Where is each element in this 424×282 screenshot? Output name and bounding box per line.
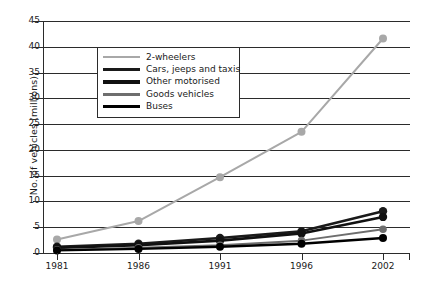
y-tick-mark	[33, 21, 43, 22]
legend: 2-wheelersCars, jeeps and taxisOther mot…	[97, 47, 240, 118]
y-tick-mark	[33, 47, 43, 48]
legend-item[interactable]: Other motorised	[103, 76, 234, 88]
x-tick-label: 1981	[27, 262, 87, 271]
legend-item[interactable]: Cars, jeeps and taxis	[103, 63, 234, 75]
gridline	[43, 253, 410, 254]
y-tick-mark	[33, 98, 43, 99]
y-tick-mark	[33, 253, 43, 254]
legend-swatch-line-icon	[103, 105, 140, 108]
y-tick-mark	[33, 227, 43, 228]
legend-item-label: Other motorised	[146, 77, 220, 86]
gridline	[43, 227, 410, 228]
legend-swatch-line-icon	[103, 80, 140, 83]
x-tick-mark	[383, 253, 384, 260]
legend-item[interactable]: Buses	[103, 101, 234, 113]
y-tick-mark	[33, 176, 43, 177]
y-tick-mark	[33, 124, 43, 125]
x-tick-mark	[139, 253, 140, 260]
line-chart: No. of vehicles (millions) 4540353025201…	[0, 0, 424, 282]
y-axis-tick-labels: 454035302520151050	[0, 0, 40, 282]
gridline	[43, 201, 410, 202]
x-tick-mark	[220, 253, 221, 260]
y-tick-mark	[33, 150, 43, 151]
gridline	[43, 124, 410, 125]
legend-item-label: Goods vehicles	[146, 90, 214, 99]
x-tick-label: 1991	[190, 262, 250, 271]
legend-swatch-line-icon	[103, 56, 140, 58]
legend-item[interactable]: Goods vehicles	[103, 88, 234, 100]
x-tick-mark	[57, 253, 58, 260]
legend-swatch-line-icon	[103, 68, 140, 71]
legend-swatch-line-icon	[103, 93, 140, 96]
legend-item-label: 2-wheelers	[146, 53, 196, 62]
gridline	[43, 150, 410, 151]
gridline	[43, 21, 410, 22]
legend-item[interactable]: 2-wheelers	[103, 51, 234, 63]
x-tick-label: 2002	[353, 262, 413, 271]
x-tick-mark	[302, 253, 303, 260]
x-tick-label: 1986	[109, 262, 169, 271]
legend-item-label: Buses	[146, 102, 173, 111]
gridline	[43, 176, 410, 177]
legend-item-label: Cars, jeeps and taxis	[146, 65, 240, 74]
y-tick-mark	[33, 201, 43, 202]
x-axis-end-tick	[409, 253, 410, 260]
y-tick-mark	[33, 73, 43, 74]
x-tick-label: 1996	[272, 262, 332, 271]
